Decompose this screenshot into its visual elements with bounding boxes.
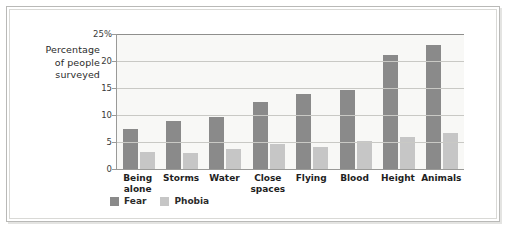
x-axis-label: Storms xyxy=(159,173,202,195)
y-tick-mark-25 xyxy=(112,34,116,35)
legend-label: Fear xyxy=(124,196,146,206)
bar-group xyxy=(247,34,290,169)
x-axis-label: Blood xyxy=(333,173,376,195)
y-tick-mark-20 xyxy=(112,61,116,62)
y-tick-label-15: 15 xyxy=(101,83,112,93)
x-axis-label-line: Water xyxy=(203,173,246,184)
gridline-10 xyxy=(117,115,464,116)
bar-fear[interactable] xyxy=(253,102,268,169)
y-tick-label-10: 10 xyxy=(101,110,112,120)
y-tick-mark-15 xyxy=(112,88,116,89)
bar-group xyxy=(291,34,334,169)
x-axis-label: Height xyxy=(376,173,419,195)
x-axis-label: Flying xyxy=(290,173,333,195)
gridline-15 xyxy=(117,88,464,89)
gridline-25 xyxy=(117,34,464,35)
bar-fear[interactable] xyxy=(340,90,355,169)
x-axis-label-line: spaces xyxy=(246,184,289,195)
y-tick-label-20: 20 xyxy=(101,56,112,66)
bar-phobia[interactable] xyxy=(226,149,241,169)
chart-legend: FearPhobia xyxy=(110,196,209,206)
bar-phobia[interactable] xyxy=(357,141,372,169)
x-axis-label: Closespaces xyxy=(246,173,289,195)
bar-group xyxy=(204,34,247,169)
y-tick-mark-10 xyxy=(112,115,116,116)
x-axis-label-line: Height xyxy=(376,173,419,184)
bar-group xyxy=(334,34,377,169)
bar-fear[interactable] xyxy=(123,129,138,169)
bar-phobia[interactable] xyxy=(140,152,155,169)
x-axis-label-line: Flying xyxy=(290,173,333,184)
bar-groups xyxy=(117,34,464,169)
x-axis-label-line: Animals xyxy=(420,173,463,184)
bar-fear[interactable] xyxy=(166,121,181,169)
x-axis-label-line: Close xyxy=(246,173,289,184)
x-axis-label-line: Storms xyxy=(159,173,202,184)
legend-swatch-icon xyxy=(110,197,119,206)
y-tick-label-25: 25% xyxy=(93,29,112,39)
bar-phobia[interactable] xyxy=(313,147,328,169)
bar-group xyxy=(377,34,420,169)
x-axis-label: Beingalone xyxy=(116,173,159,195)
bar-group xyxy=(160,34,203,169)
legend-swatch-icon xyxy=(160,197,169,206)
legend-label: Phobia xyxy=(174,196,209,206)
x-axis-label-line: Being xyxy=(116,173,159,184)
bar-fear[interactable] xyxy=(426,45,441,169)
bar-phobia[interactable] xyxy=(270,144,285,169)
bar-phobia[interactable] xyxy=(443,133,458,169)
bar-fear[interactable] xyxy=(383,55,398,169)
bar-phobia[interactable] xyxy=(183,153,198,169)
x-axis-label: Animals xyxy=(420,173,463,195)
legend-item-fear[interactable]: Fear xyxy=(110,196,146,206)
y-tick-mark-5 xyxy=(112,142,116,143)
bar-fear[interactable] xyxy=(296,94,311,169)
legend-item-phobia[interactable]: Phobia xyxy=(160,196,209,206)
bar-group xyxy=(421,34,464,169)
x-axis-label: Water xyxy=(203,173,246,195)
bar-group xyxy=(117,34,160,169)
x-axis-label-line: Blood xyxy=(333,173,376,184)
y-tick-mark-0 xyxy=(112,169,116,170)
plot-area xyxy=(116,34,464,170)
x-axis-labels: BeingaloneStormsWaterClosespacesFlyingBl… xyxy=(116,173,463,195)
x-axis-label-line: alone xyxy=(116,184,159,195)
gridline-20 xyxy=(117,61,464,62)
y-axis-labels: 25%20151050 xyxy=(84,34,112,169)
gridline-5 xyxy=(117,142,464,143)
